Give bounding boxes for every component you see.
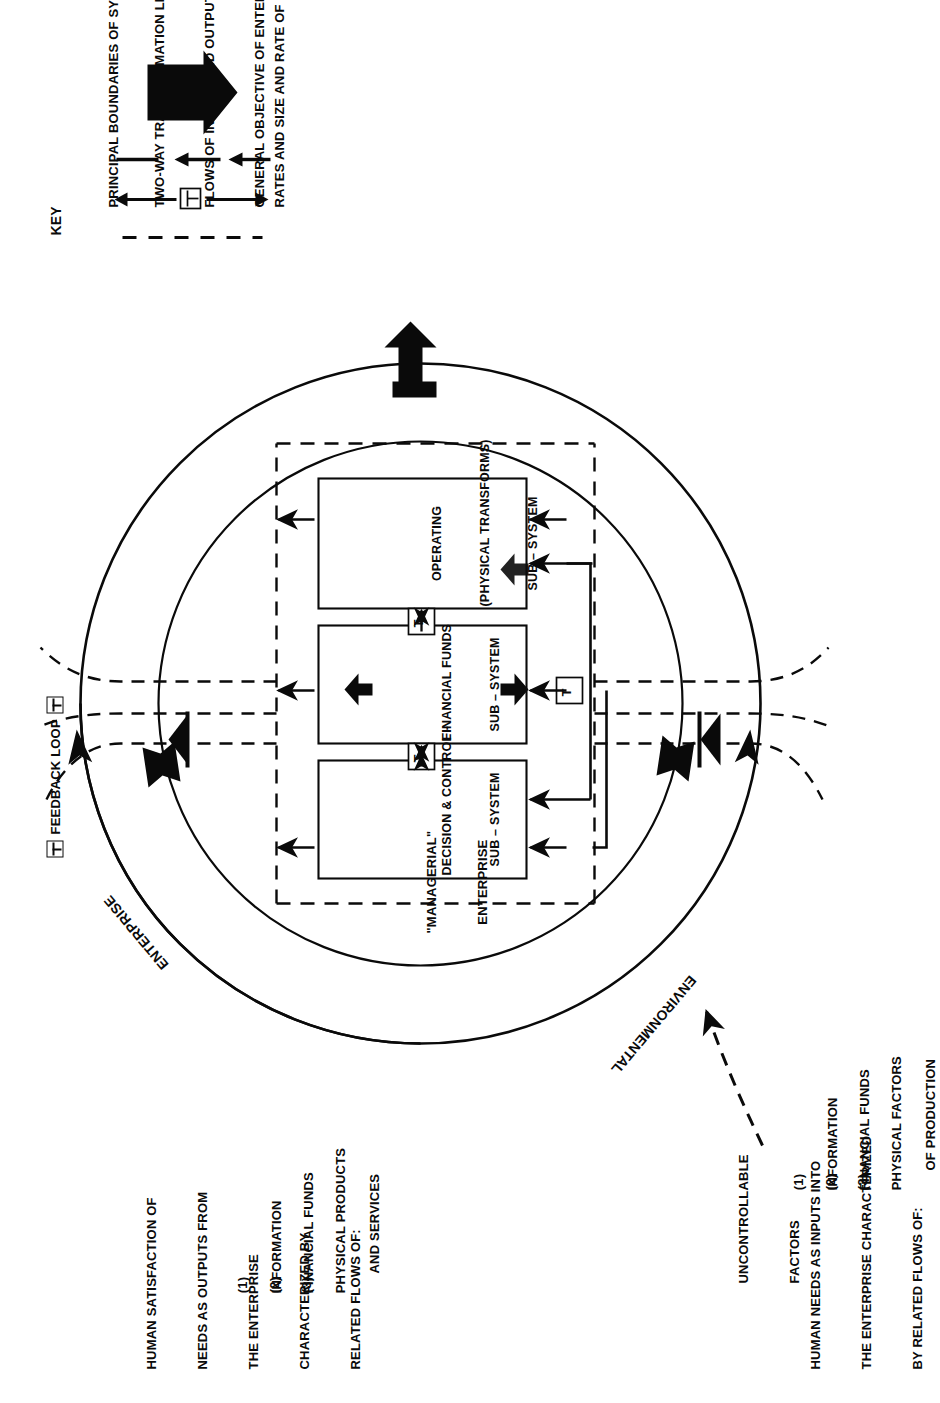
- decision-control-line-1: DECISION & CONTROL -: [438, 763, 454, 875]
- outputs-line-1: HUMAN SATISFACTION OF: [142, 1191, 159, 1369]
- key-entry-4-text2: RATES AND SIZE AND RATE OF PROFITABILITY: [270, 0, 287, 207]
- key-title: KEY: [46, 206, 64, 235]
- inputs-item-2-num: (2): [822, 1173, 837, 1190]
- uncontrollable-factors-arrow: [706, 1011, 762, 1145]
- outputs-item-3: (3) PHYSICAL PRODUCTS AND SERVICES: [280, 1147, 416, 1308]
- general-objective-block-arrow: [384, 321, 436, 397]
- key-entry-4-text: GENERAL OBJECTIVE OF ENTERPRISE, VIZ LON…: [250, 0, 267, 207]
- inputs-item-3: (3) PHYSICAL FACTORS OF PRODUCTION: [836, 1056, 940, 1205]
- feedback-loop-label-group: FEEDBACK LOOP: [46, 696, 63, 857]
- outputs-item-3-label2: AND SERVICES: [365, 1147, 382, 1273]
- inputs-item-1-num: (1): [790, 1173, 805, 1190]
- filter-glyph-1: T: [410, 754, 425, 762]
- outputs-item-1-num: (1): [234, 1276, 249, 1293]
- key-entry-2-text: TWO-WAY TRANSFORMATION LINKAGES BETWEEN …: [150, 0, 167, 207]
- input-dashed-flows: [594, 647, 832, 799]
- outputs-item-2-num: (2): [266, 1276, 281, 1293]
- decision-control-line-2: SUB – SYSTEM: [486, 763, 502, 875]
- subsystem-label-financial-funds: FINANCIAL FUNDS SUB – SYSTEM: [406, 628, 534, 740]
- filter-glyph-2: T: [410, 619, 425, 627]
- key-entry-3-text: FLOWS OF INPUTS AND OUTPUTS MEASURED IN …: [200, 0, 217, 207]
- operating-line-1: OPERATING: [428, 480, 444, 606]
- operating-line-2: (PHYSICAL TRANSFORMS): [476, 480, 492, 606]
- outputs-line-2: NEEDS AS OUTPUTS FROM: [193, 1191, 210, 1369]
- outputs-item-3-label: PHYSICAL PRODUCTS: [332, 1147, 347, 1292]
- financial-funds-line-2: SUB – SYSTEM: [486, 628, 502, 740]
- key-symbols: [108, 123, 268, 251]
- feedback-loop-label: FEEDBACK LOOP: [46, 719, 63, 834]
- inputs-item-3-label: PHYSICAL FACTORS: [888, 1056, 903, 1190]
- filter-icon-right: [46, 696, 63, 713]
- uncontrollable-line-1: UNCONTROLLABLE: [734, 1154, 751, 1283]
- outputs-item-3-num: (3): [298, 1276, 313, 1293]
- subsystem-label-decision-control: DECISION & CONTROL - SUB – SYSTEM: [406, 763, 534, 875]
- financial-funds-line-1: FINANCIAL FUNDS: [438, 628, 454, 740]
- operating-line-3: SUB – SYSTEM: [524, 480, 540, 606]
- filter-glyph-3: T: [558, 688, 573, 696]
- subsystem-label-operating: OPERATING (PHYSICAL TRANSFORMS) SUB – SY…: [396, 480, 572, 606]
- key-entry-1-text: PRINCIPAL BOUNDARIES OF SYSTEM'S ANALYSI…: [104, 0, 121, 207]
- inputs-item-3-num: (3): [854, 1173, 869, 1190]
- filter-icon-left: [46, 840, 63, 857]
- inputs-item-3-label2: OF PRODUCTION: [921, 1056, 938, 1170]
